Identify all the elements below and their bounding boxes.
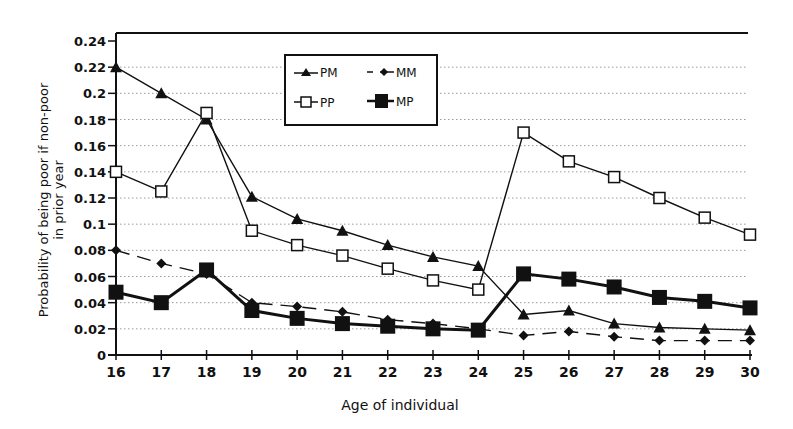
triangle-marker-icon (246, 191, 258, 202)
y-tick-label: 0.06 (74, 270, 106, 285)
x-tick-label: 17 (152, 364, 171, 380)
y-tick-label: 0.16 (74, 139, 106, 154)
open-square-marker-icon (428, 275, 439, 286)
triangle-marker-icon (563, 305, 575, 316)
open-square-marker-icon (699, 212, 710, 223)
y-tick-label: 0 (97, 348, 106, 363)
line-chart-canvas: 00.020.040.060.080.10.120.140.160.180.20… (0, 0, 793, 429)
open-square-marker-icon (246, 225, 257, 236)
y-axis-label: Probability of being poor if non-poor in… (36, 82, 66, 317)
legend-label-pm: PM (320, 66, 338, 80)
y-tick-label: 0.08 (74, 243, 106, 258)
x-axis-label: Age of individual (341, 397, 458, 413)
x-tick-label: 28 (650, 364, 669, 380)
legend-label-mp: MP (396, 95, 414, 109)
diamond-marker-icon (519, 330, 529, 340)
x-tick-label: 22 (378, 364, 397, 380)
x-tick-label: 27 (604, 364, 623, 380)
filled-square-marker-icon (154, 295, 169, 310)
y-tick-label: 0.22 (74, 60, 106, 75)
x-tick-label: 18 (197, 364, 216, 380)
y-tick-label: 0.24 (74, 34, 106, 49)
open-square-marker-icon (654, 193, 665, 204)
x-tick-label: 30 (740, 364, 760, 380)
x-tick-label: 26 (559, 364, 578, 380)
filled-square-marker-icon (375, 94, 388, 108)
y-tick-label: 0.1 (83, 217, 106, 232)
open-square-marker-icon (201, 107, 212, 118)
x-tick-label: 21 (333, 364, 352, 380)
x-tick-label: 25 (514, 364, 533, 380)
diamond-marker-icon (609, 332, 619, 342)
y-tick-label: 0.14 (74, 165, 106, 180)
filled-square-marker-icon (426, 321, 441, 336)
open-square-marker-icon (609, 172, 620, 183)
y-tick-label: 0.04 (74, 296, 106, 311)
diamond-marker-icon (337, 307, 347, 317)
diamond-marker-icon (745, 336, 755, 346)
legend-label-mm: MM (396, 66, 417, 80)
filled-square-marker-icon (561, 272, 576, 287)
x-tick-label: 23 (423, 364, 442, 380)
open-square-marker-icon (337, 250, 348, 261)
x-tick-label: 29 (695, 364, 714, 380)
legend: PM MM PP MP (285, 55, 437, 125)
filled-square-marker-icon (290, 311, 305, 326)
open-square-marker-icon (473, 284, 484, 295)
filled-square-marker-icon (607, 279, 622, 294)
y-tick-label: 0.12 (74, 191, 106, 206)
diamond-marker-icon (700, 336, 710, 346)
triangle-marker-icon (382, 239, 394, 250)
open-square-marker-icon (156, 186, 167, 197)
open-square-marker-icon (292, 240, 303, 251)
chart: 00.020.040.060.080.10.120.140.160.180.20… (0, 0, 793, 429)
diamond-marker-icon (564, 326, 574, 336)
y-tick-label: 0.2 (83, 86, 106, 101)
filled-square-marker-icon (516, 266, 531, 281)
open-square-marker-icon (563, 156, 574, 167)
x-tick-label: 19 (242, 364, 261, 380)
open-square-marker-icon (382, 263, 393, 274)
legend-label-pp: PP (320, 96, 334, 110)
filled-square-marker-icon (244, 303, 259, 318)
open-square-marker-icon (111, 166, 122, 177)
y-axis-label-line-2: in prior year (51, 160, 66, 240)
filled-square-marker-icon (199, 262, 214, 277)
open-square-marker-icon (518, 127, 529, 138)
filled-square-marker-icon (743, 300, 758, 315)
y-axis-label-line-1: Probability of being poor if non-poor (36, 82, 51, 317)
filled-square-marker-icon (109, 285, 124, 300)
y-tick-label: 0.02 (74, 322, 106, 337)
open-square-marker-icon (301, 97, 311, 107)
diamond-marker-icon (654, 336, 664, 346)
triangle-marker-icon (291, 213, 303, 224)
filled-square-marker-icon (380, 319, 395, 334)
filled-square-marker-icon (471, 323, 486, 338)
diamond-marker-icon (111, 245, 121, 255)
x-tick-label: 24 (469, 364, 489, 380)
x-tick-label: 16 (106, 364, 125, 380)
filled-square-marker-icon (335, 316, 350, 331)
diamond-marker-icon (156, 258, 166, 268)
filled-square-marker-icon (697, 294, 712, 309)
y-tick-label: 0.18 (74, 113, 106, 128)
filled-square-marker-icon (652, 290, 667, 305)
x-tick-label: 20 (287, 364, 307, 380)
open-square-marker-icon (745, 229, 756, 240)
